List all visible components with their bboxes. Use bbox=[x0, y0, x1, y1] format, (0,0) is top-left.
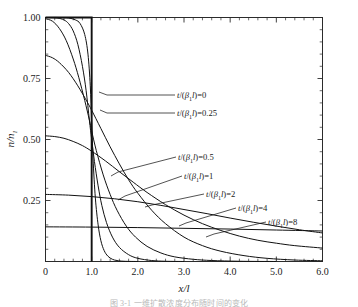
curve-label-0: t/(β1l)=0 bbox=[177, 90, 206, 102]
x-axis-title: x/l bbox=[178, 282, 190, 294]
y-tick-label: 0.75 bbox=[23, 73, 41, 84]
curve-label-6: t/(β1l)=8 bbox=[268, 217, 297, 229]
figure-caption: 图 3-1 一维扩散浓度分布随时间的变化 bbox=[0, 299, 358, 307]
curve-2 bbox=[46, 18, 185, 262]
x-tick-label: 4.0 bbox=[224, 266, 237, 277]
y-axis-tick-labels: 0.250.500.751.00 bbox=[23, 12, 41, 206]
x-tick-label: 3.0 bbox=[178, 266, 191, 277]
curve-annotations: t/(β1l)=0t/(β1l)=0.25t/(β1l)=0.5t/(β1l)=… bbox=[177, 90, 297, 229]
line-chart: 01.02.03.04.05.06.0 0.250.500.751.00 t/(… bbox=[0, 0, 358, 307]
leader-line-3 bbox=[118, 176, 182, 200]
curve-label-2: t/(β1l)=0.5 bbox=[178, 152, 214, 164]
curve-label-3: t/(β1l)=1 bbox=[184, 171, 213, 183]
figure-container: 01.02.03.04.05.06.0 0.250.500.751.00 t/(… bbox=[0, 0, 358, 307]
y-axis-title-group: n/n1 bbox=[4, 130, 18, 147]
x-axis-tick-labels: 01.02.03.04.05.06.0 bbox=[43, 266, 329, 277]
x-tick-label: 6.0 bbox=[316, 266, 329, 277]
y-tick-label: 0.50 bbox=[23, 134, 41, 145]
x-tick-label: 2.0 bbox=[132, 266, 145, 277]
curve-label-4: t/(β1l)=2 bbox=[206, 189, 235, 201]
x-tick-label: 1.0 bbox=[85, 266, 98, 277]
leader-line-0 bbox=[99, 92, 175, 95]
leader-line-4 bbox=[145, 194, 204, 207]
curve-label-5: t/(β1l)=4 bbox=[238, 203, 268, 215]
x-tick-label: 0 bbox=[43, 266, 48, 277]
leader-line-1 bbox=[100, 110, 175, 113]
curve-label-1: t/(β1l)=0.25 bbox=[177, 108, 217, 120]
y-tick-label: 1.00 bbox=[23, 12, 41, 23]
y-axis-title: n/n1 bbox=[4, 130, 18, 147]
x-tick-label: 5.0 bbox=[270, 266, 283, 277]
y-tick-label: 0.25 bbox=[23, 195, 41, 206]
